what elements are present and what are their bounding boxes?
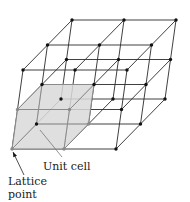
lattice-edge: [67, 20, 73, 60]
lattice-point: [16, 108, 19, 111]
lattice-edge: [23, 45, 48, 70]
lattice-diagram: [0, 0, 190, 202]
lattice-point: [35, 122, 38, 125]
lattice-point: [62, 147, 65, 150]
lattice-edge: [141, 99, 166, 124]
lattice-edge: [94, 45, 100, 85]
lattice-point: [59, 97, 62, 100]
lattice-edge: [42, 60, 67, 85]
lattice-edge: [165, 60, 171, 100]
lattice-edge: [113, 60, 119, 100]
lattice-point: [10, 147, 13, 150]
unit-cell-fill: [12, 85, 94, 150]
lattice-edge: [18, 70, 24, 110]
lattice-edge: [94, 60, 119, 85]
lattice-point: [40, 83, 43, 86]
lattice-edge: [122, 70, 128, 110]
lattice-edge: [119, 20, 125, 60]
lattice-edge: [42, 45, 48, 85]
lattice-point: [92, 83, 95, 86]
lattice-edge: [146, 60, 171, 85]
lattice-edge: [141, 85, 147, 125]
lattice-point: [125, 68, 128, 71]
lattice-point: [70, 18, 73, 21]
lattice-point: [111, 97, 114, 100]
lattice-point: [139, 122, 142, 125]
lattice-point: [122, 18, 125, 21]
lattice-edge: [75, 45, 100, 70]
lattice-point: [73, 68, 76, 71]
lattice-point: [117, 58, 120, 61]
lattice-point: [163, 97, 166, 100]
unit-cell-shading: [12, 85, 94, 150]
lattice-edge: [100, 20, 125, 45]
lattice-point: [120, 108, 123, 111]
lattice-edge: [146, 45, 152, 85]
lattice-edge: [152, 20, 177, 45]
lattice-point-label-line1: Lattice: [8, 176, 47, 188]
lattice-point-label-line2: point: [8, 189, 37, 201]
lattice-point: [98, 43, 101, 46]
lattice-edge: [48, 20, 73, 45]
lattice-point: [150, 43, 153, 46]
lattice-edge: [89, 99, 114, 124]
unit-cell-label: Unit cell: [43, 161, 91, 173]
lattice-point: [87, 122, 90, 125]
lattice-point: [46, 43, 49, 46]
arrowhead-icon: [13, 152, 17, 157]
lattice-point: [68, 108, 71, 111]
lattice-edge: [116, 124, 141, 149]
lattice-point: [174, 18, 177, 21]
lattice-edge: [116, 110, 122, 150]
lattice-edge: [127, 45, 152, 70]
lattice-point: [65, 58, 68, 61]
lattice-point: [169, 58, 172, 61]
lattice-edge: [171, 20, 177, 60]
lattice-point: [144, 83, 147, 86]
lattice-edge: [122, 85, 147, 110]
lattice-point: [114, 147, 117, 150]
lattice-point: [21, 68, 24, 71]
